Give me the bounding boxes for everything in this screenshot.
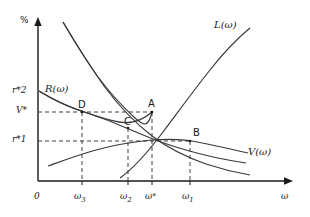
- x-tick-label-w1: ω1: [182, 192, 194, 204]
- x-tick-label-w3: ω3: [74, 192, 86, 204]
- point-label-B: B: [193, 128, 200, 138]
- x-tick-label-w1-sub: 1: [189, 196, 193, 204]
- y-tick-label-vstar: V*: [16, 106, 27, 115]
- x-tick-label-zero: 0: [34, 192, 40, 201]
- economics-diagram-figure: % r*2 V* r*1 0 ω3 ω2 ω* ω1 ω L(ω) R(ω) V…: [0, 0, 310, 217]
- x-tick-label-wstar: ω*: [145, 192, 156, 201]
- point-label-A: A: [148, 99, 155, 109]
- point-label-D: D: [78, 100, 86, 110]
- y-axis-unit-label: %: [20, 16, 29, 25]
- y-axis: [34, 17, 41, 181]
- x-tick-label-w2: ω2: [120, 192, 132, 204]
- y-tick-label-r2: r*2: [12, 86, 27, 95]
- x-axis: [38, 177, 293, 184]
- curve-label-V-omega: V(ω): [248, 147, 271, 157]
- y-tick-label-r1: r*1: [12, 135, 27, 144]
- plot-canvas: [0, 0, 310, 217]
- point-label-C: C: [124, 117, 131, 127]
- curve-R-omega-main: [39, 91, 246, 163]
- curve-label-L-omega: L(ω): [214, 20, 237, 30]
- curve-V-omega: [48, 139, 248, 166]
- x-tick-label-wstar-sub: *: [152, 192, 156, 201]
- x-tick-label-w3-sub: 3: [81, 196, 85, 204]
- x-tick-label-w2-sub: 2: [127, 196, 131, 204]
- x-axis-variable-label: ω: [281, 192, 288, 201]
- curve-label-R-omega: R(ω): [45, 84, 69, 94]
